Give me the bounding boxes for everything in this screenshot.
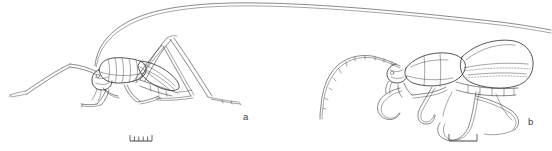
figure-b-abdomen xyxy=(456,82,518,96)
figure-b-hindleg xyxy=(438,92,519,141)
figure-a-midleg xyxy=(124,85,161,104)
figure-a-cercus xyxy=(178,90,192,92)
figure-b-foreleg xyxy=(378,83,447,120)
figure-label-a: a xyxy=(243,112,248,122)
scalebar-figure-a xyxy=(130,135,152,141)
figure-a-foreleg xyxy=(81,90,109,107)
figure-b-head xyxy=(386,64,407,94)
figure-a-hindleg-near xyxy=(133,45,194,100)
figure-b-midleg xyxy=(418,87,435,124)
figure-a-drawing xyxy=(9,3,551,107)
figure-b-drawing xyxy=(320,40,533,140)
figure-b-antenna xyxy=(320,56,400,120)
figure-a-antenna xyxy=(95,3,551,67)
figure-a-front-long-leg xyxy=(9,64,97,97)
figure-plate: a b xyxy=(0,0,552,151)
line-drawing-canvas xyxy=(0,0,552,151)
figure-a-abdomen xyxy=(140,80,178,96)
figure-label-b: b xyxy=(528,117,533,127)
figure-b-pronotum xyxy=(405,53,466,86)
figure-b-elytra xyxy=(460,40,533,88)
